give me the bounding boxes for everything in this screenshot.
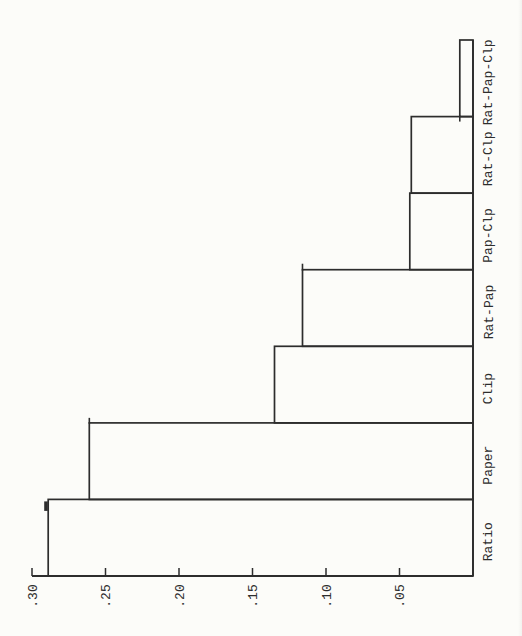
category-label-clip: Clip	[482, 373, 497, 404]
scanned-chart-page: .30.25.20.15.10.05Rat-Pap-ClpRat-ClpPap-…	[0, 0, 522, 636]
tick-label--25: .25	[99, 584, 114, 607]
category-label-paper: Paper	[482, 446, 497, 485]
tick-label--20: .20	[173, 584, 188, 607]
category-label-pap-clp: Pap-Clp	[482, 208, 497, 263]
category-label-ratio: Ratio	[482, 522, 497, 561]
tick-label--30: .30	[26, 584, 41, 607]
bar-rat-pap	[303, 270, 474, 347]
tick-label--10: .10	[320, 584, 335, 607]
bar-rat-pap-clp	[460, 40, 473, 117]
bar-rat-clp	[411, 117, 473, 194]
rotated-bar-chart: .30.25.20.15.10.05Rat-Pap-ClpRat-ClpPap-…	[0, 0, 522, 636]
bar-pap-clp	[410, 193, 473, 270]
category-label-rat-pap-clp: Rat-Pap-Clp	[482, 39, 497, 125]
category-label-rat-clp: Rat-Clp	[482, 132, 497, 187]
bar-ratio	[48, 499, 473, 576]
bar-clip	[275, 346, 474, 423]
tick-label--05: .05	[393, 584, 408, 607]
scan-artifact	[44, 501, 48, 511]
category-label-rat-pap: Rat-Pap	[482, 285, 497, 340]
bar-paper	[89, 423, 473, 500]
tick-label--15: .15	[246, 584, 261, 607]
